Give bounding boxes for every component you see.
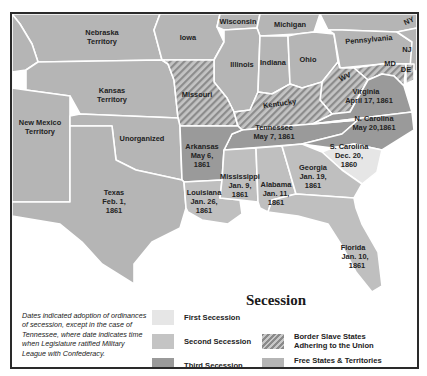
swatch-third-secession [152,358,174,369]
label-ohio: Ohio [300,55,317,64]
svg-text:May 7, 1861: May 7, 1861 [253,132,294,141]
svg-text:Jan. 19,: Jan. 19, [299,172,326,181]
label-de: DE [401,65,411,74]
swatch-first-secession [152,310,174,325]
svg-text:Dec. 20,: Dec. 20, [335,151,363,160]
label-alabama: Alabama [261,180,293,189]
footnote: Dates indicated adoption of ordinances o… [22,311,147,358]
svg-text:1860: 1860 [341,160,357,169]
label-iowa: Iowa [180,33,197,42]
label-new-mexico: New Mexico [19,118,62,127]
label-nj: NJ [402,45,411,54]
svg-text:May 20,1861: May 20,1861 [352,123,395,132]
label-wisconsin: Wisconsin [220,17,257,26]
svg-text:Territory: Territory [87,37,118,46]
label-illinois: Illinois [230,60,253,69]
label-nebraska: Nebraska [85,28,119,37]
label-kansas: Kansas [99,86,125,95]
label-md: MD [384,59,396,68]
label-michigan: Michigan [274,20,307,29]
legend-item-free-states: Free States & TerritoriesAdhering to the… [262,356,382,369]
svg-text:Territory: Territory [97,95,128,104]
svg-text:1861: 1861 [305,181,321,190]
legend-title: Secession [246,292,306,309]
svg-text:April 17, 1861: April 17, 1861 [345,96,393,105]
label-louisiana: Louisiana [187,188,222,197]
legend-item-first-secession: First Secession [152,310,240,325]
svg-text:Jan. 10,: Jan. 10, [341,252,368,261]
label-n-carolina: N. Carolina [354,114,394,123]
svg-text:1861: 1861 [232,190,248,199]
label-virginia: Virginia [353,87,381,96]
svg-text:1861: 1861 [268,198,284,207]
label-missouri: Missouri [182,90,212,99]
region-new-mexico [12,88,70,202]
label-mississippi: Mississippi [220,172,260,181]
label-tennessee: Tennessee [255,123,293,132]
svg-text:1861: 1861 [106,206,122,215]
label-indiana: Indiana [260,58,287,67]
label-texas: Texas [104,188,124,197]
svg-text:1861: 1861 [194,160,210,169]
swatch-second-secession [152,334,174,349]
label-s-carolina: S. Carolina [330,142,369,151]
swatch-free-states [262,358,284,370]
svg-text:1861: 1861 [196,206,212,215]
svg-text:Territory: Territory [25,127,56,136]
legend-item-third-secession: Third Secession [152,358,243,369]
legend-item-second-secession: Second Secession [152,334,251,349]
label-unorganized: Unorganized [120,134,165,143]
svg-text:Feb. 1,: Feb. 1, [102,197,125,206]
label-florida: Florida [341,243,367,252]
label-georgia: Georgia [299,163,328,172]
svg-text:1861: 1861 [349,261,365,270]
legend-item-border-slave: Border Slave StatesAdhering to the Union [262,332,374,350]
svg-text:Jan. 11,: Jan. 11, [263,189,290,198]
svg-text:Jan. 9,: Jan. 9, [228,181,251,190]
swatch-border-slave [262,334,284,349]
svg-text:May 6,: May 6, [191,151,214,160]
svg-text:Jan. 26,: Jan. 26, [190,197,217,206]
map-frame: Nebraska Territory Iowa Wisconsin Michig… [10,12,419,369]
label-arkansas: Arkansas [185,142,218,151]
